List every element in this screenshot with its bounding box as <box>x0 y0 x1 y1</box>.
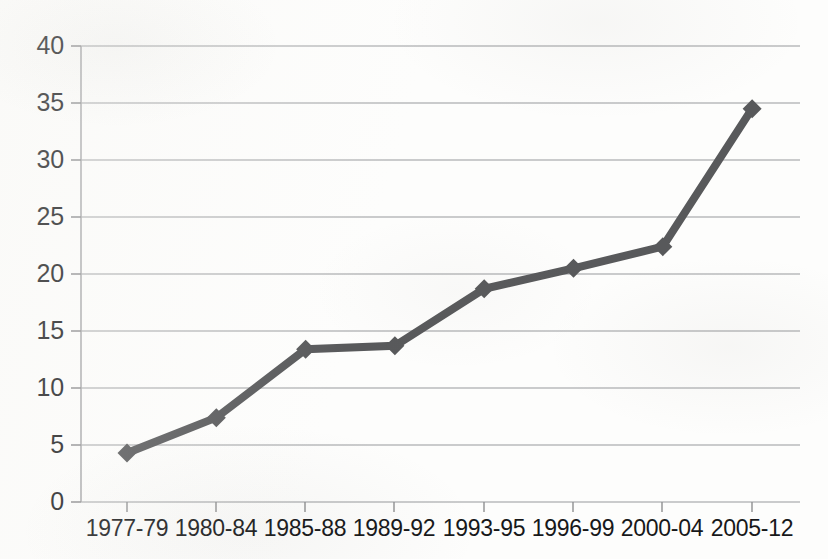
y-tick-label-0: 0 <box>2 489 64 514</box>
y-tick-label-30: 30 <box>2 147 64 172</box>
y-tick-label-5: 5 <box>2 432 64 457</box>
y-tick-label-15: 15 <box>2 318 64 343</box>
y-tick-label-25: 25 <box>2 204 64 229</box>
x-axis-ticks <box>127 502 752 512</box>
line-chart-plot <box>0 0 828 559</box>
y-tick-label-10: 10 <box>2 375 64 400</box>
x-tick-label-8: 2005-12 <box>687 517 817 540</box>
chart-container: 40 35 30 25 20 15 10 5 0 1977-79 1980-84… <box>0 0 828 559</box>
y-tick-label-20: 20 <box>2 261 64 286</box>
y-axis-ticks <box>71 46 81 502</box>
y-tick-label-40: 40 <box>2 33 64 58</box>
data-point-markers <box>118 99 762 462</box>
y-tick-label-35: 35 <box>2 90 64 115</box>
data-point-marker <box>564 259 583 278</box>
gridlines <box>81 46 800 502</box>
